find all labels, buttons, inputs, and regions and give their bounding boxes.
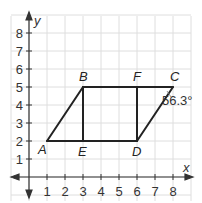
y-tick-label: 8: [16, 26, 23, 41]
x-tick-label: 5: [115, 184, 122, 199]
point-label-b: B: [79, 69, 88, 84]
y-tick-label: 6: [16, 62, 23, 77]
x-tick-label: 4: [97, 184, 104, 199]
x-tick-label: 1: [43, 184, 50, 199]
point-label-f: F: [133, 69, 142, 84]
y-tick-label: 7: [16, 44, 23, 59]
point-label-a: A: [37, 142, 47, 157]
y-axis-top-arrow-icon: [26, 12, 32, 20]
x-axis-left-arrow-icon: [11, 174, 19, 180]
tick-labels: 1234567812345678: [16, 26, 177, 199]
y-tick-label: 4: [16, 98, 23, 113]
x-tick-label: 2: [61, 184, 68, 199]
coordinate-diagram: 1234567812345678 x y 56.3° ABCDEF: [0, 0, 202, 203]
y-axis-bottom-arrow-icon: [26, 190, 32, 198]
grid: [11, 15, 191, 201]
point-label-e: E: [78, 144, 87, 159]
y-tick-label: 2: [16, 134, 23, 149]
point-label-d: D: [132, 144, 141, 159]
y-tick-label: 5: [16, 80, 23, 95]
x-tick-label: 7: [151, 184, 158, 199]
axis-ticks: [26, 33, 173, 180]
figure-segments: [47, 87, 173, 141]
point-labels: ABCDEF: [37, 69, 180, 159]
x-tick-label: 3: [79, 184, 86, 199]
point-label-c: C: [170, 69, 180, 84]
x-tick-label: 8: [169, 184, 176, 199]
x-tick-label: 6: [133, 184, 140, 199]
y-tick-label: 1: [16, 152, 23, 167]
y-tick-label: 3: [16, 116, 23, 131]
x-axis-label: x: [182, 160, 190, 175]
angle-label: 56.3°: [162, 93, 193, 108]
